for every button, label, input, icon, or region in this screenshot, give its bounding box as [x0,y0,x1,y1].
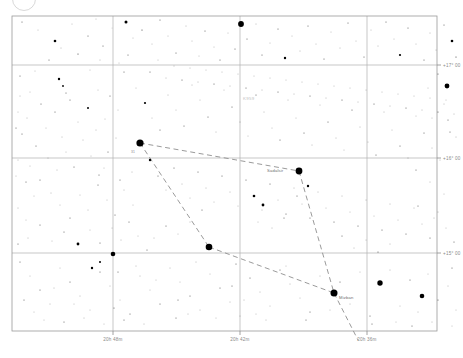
bright-star [206,244,213,251]
star [77,243,80,246]
star [66,152,67,153]
star [358,226,359,227]
star [168,95,169,96]
star [138,236,139,237]
star [232,107,233,108]
star [300,51,301,52]
star [352,110,353,111]
star [160,20,161,21]
star [48,158,49,159]
dec-tick-label: +16° 00 [443,156,461,161]
star [133,205,134,206]
star [206,70,207,71]
star [446,228,447,229]
star [256,95,257,96]
star [246,180,247,181]
star [70,282,71,283]
star [178,234,179,235]
star [238,206,239,207]
star [228,33,229,34]
dec-axis-labels: +17° 00+16° 00+15° 00 [443,63,461,256]
star [398,220,399,221]
star [416,170,417,171]
star [374,104,375,105]
star [30,276,31,277]
star [125,21,128,24]
star [418,312,419,313]
star [166,226,167,227]
bright-star [331,290,338,297]
star [34,312,35,313]
star [80,195,81,196]
star [176,53,177,54]
star [216,318,217,319]
star [284,218,285,219]
star [414,96,415,97]
star [370,316,371,317]
star [390,244,391,245]
star [366,200,367,201]
star [390,106,391,107]
star [371,30,372,31]
star [87,107,89,109]
star [199,56,200,57]
star [330,310,331,311]
star [320,105,321,106]
star [192,41,193,42]
bright-star [136,139,143,146]
star [84,318,85,319]
star [399,54,401,56]
star [90,230,91,231]
star [30,92,31,93]
star [292,36,293,37]
star [136,266,137,267]
star [178,300,179,301]
star [310,96,311,97]
star [64,322,65,323]
star [24,300,25,301]
star [444,194,445,195]
star [104,168,105,169]
star [176,110,177,111]
star [246,88,247,89]
star [154,238,155,239]
star [41,104,42,105]
star [133,38,134,39]
star [378,46,379,47]
star [238,74,239,75]
star [408,28,409,29]
star [99,261,101,263]
star [220,288,221,289]
star [124,320,125,321]
star-name-label: Sadalsir [267,168,284,173]
star [160,304,161,305]
star [64,232,65,233]
star [350,304,351,305]
star [120,180,121,181]
star [270,184,271,185]
star [220,60,221,61]
star [115,215,116,216]
star [258,222,259,223]
star [284,57,286,59]
star [16,128,17,129]
star [270,78,271,79]
star [198,82,199,83]
star-name-label: Mizban [339,295,354,300]
star [360,272,361,273]
star [26,182,27,183]
star [430,33,431,34]
star [50,304,51,305]
star [288,100,289,101]
star [244,300,245,301]
sky-chart[interactable]: 20h 48m20h 42m20h 36m +17° 00+16° 00+15°… [0,0,463,358]
chart-canvas[interactable]: 20h 48m20h 42m20h 36m +17° 00+16° 00+15°… [0,0,463,358]
star [406,108,407,109]
star [116,138,117,139]
star [342,236,343,237]
star [190,222,191,223]
star [334,222,335,223]
star [422,224,423,225]
star [340,48,341,49]
star [182,80,183,81]
